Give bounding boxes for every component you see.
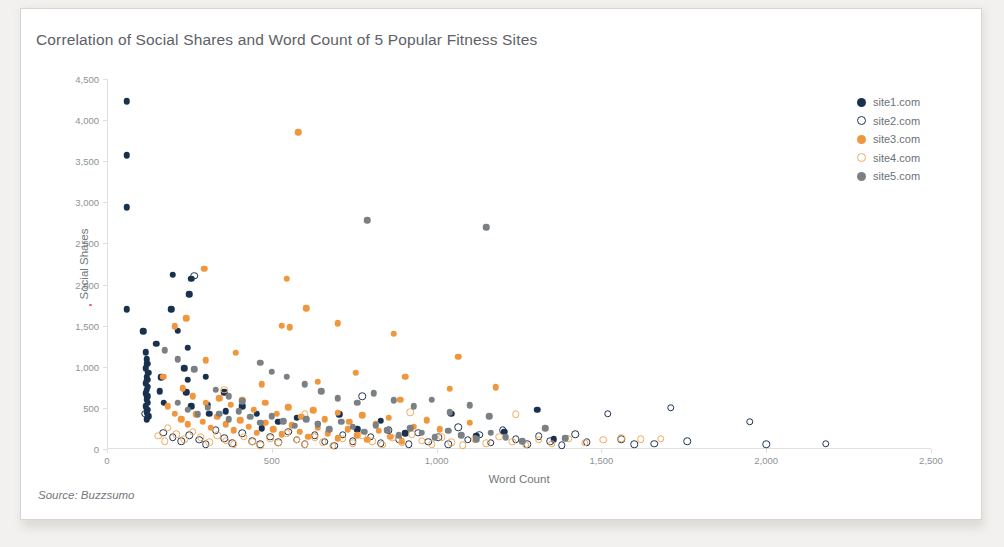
data-point [315,421,322,428]
data-point [455,354,462,361]
data-point [581,439,589,447]
data-point [683,437,691,445]
data-point [503,434,510,441]
y-tick-label: 500 [83,402,99,413]
data-point [283,373,290,380]
data-point [257,359,264,366]
data-point [326,426,333,433]
data-point [378,441,386,449]
data-point [372,422,379,429]
data-point [124,306,131,313]
data-point [398,439,406,447]
x-tick-label: 2,000 [754,455,778,466]
data-point [454,423,462,431]
data-point [197,434,205,442]
y-tick-label: 0 [94,444,99,455]
data-point [185,345,192,352]
data-point [423,417,430,424]
y-tick-mark [103,326,107,327]
legend-item-site1-com[interactable]: site1.com [857,93,977,112]
data-point [183,315,190,322]
data-point [458,432,465,439]
data-point [181,365,188,372]
y-tick-label: 4,000 [75,115,99,126]
data-point [459,442,467,450]
data-point [438,434,446,442]
data-point [405,441,413,449]
y-tick-label: 4,500 [75,74,99,85]
data-point [376,428,383,435]
x-tick-mark [107,449,108,453]
data-point [321,416,328,423]
x-axis-line [107,448,931,449]
x-tick-label: 1,500 [590,455,614,466]
data-point [303,305,310,312]
data-point [519,438,526,445]
data-point [509,438,517,446]
data-point [599,436,607,444]
data-point [283,276,290,283]
data-point [338,419,345,426]
data-point [419,430,426,437]
legend-item-site5-com[interactable]: site5.com [857,167,977,186]
data-point [315,378,322,385]
data-point [364,217,371,224]
scatter-plot: 05001,0001,5002,0002,5003,0003,5004,0004… [107,79,931,449]
data-point [269,413,276,420]
x-tick-mark [272,449,273,453]
data-point [822,440,830,448]
data-point [270,426,277,433]
data-point [226,393,233,400]
legend-label: site2.com [873,115,920,127]
data-point [493,384,500,391]
data-point [301,441,309,449]
data-point [402,373,409,380]
data-point [571,430,579,438]
page-title: Correlation of Social Shares and Word Co… [36,31,537,49]
data-point [285,404,292,411]
data-point [227,401,234,408]
data-point [222,408,229,415]
data-point [172,430,180,438]
data-point [604,410,612,418]
data-point [185,377,192,384]
data-point [437,426,444,433]
x-tick-mark [437,449,438,453]
data-point [466,402,473,409]
data-point [418,437,426,445]
data-point [170,271,177,278]
data-point [124,152,131,159]
legend-item-site4-com[interactable]: site4.com [857,149,977,168]
data-point [617,435,625,443]
data-point [164,424,172,432]
data-point [160,373,167,380]
data-point [391,397,398,404]
data-point [232,350,239,357]
data-point [269,368,276,375]
y-tick-mark [103,285,107,286]
data-point [295,129,302,136]
data-point [240,433,248,441]
data-point [175,356,182,363]
data-point [168,306,175,313]
data-point [266,435,274,443]
data-point [236,408,243,415]
data-point [124,204,131,211]
data-point [293,436,301,444]
data-point [354,400,361,407]
data-point [432,434,439,441]
legend-item-site2-com[interactable]: site2.com [857,112,977,131]
data-point [349,424,356,431]
data-point [310,407,317,414]
y-tick-mark [103,161,107,162]
data-point [199,419,206,426]
data-point [247,414,254,421]
data-point [213,387,220,394]
x-tick-mark [601,449,602,453]
data-point [746,418,754,426]
data-point [237,417,244,424]
data-point [171,323,178,330]
data-point [189,428,197,436]
data-point [359,393,367,401]
legend-item-site3-com[interactable]: site3.com [857,130,977,149]
